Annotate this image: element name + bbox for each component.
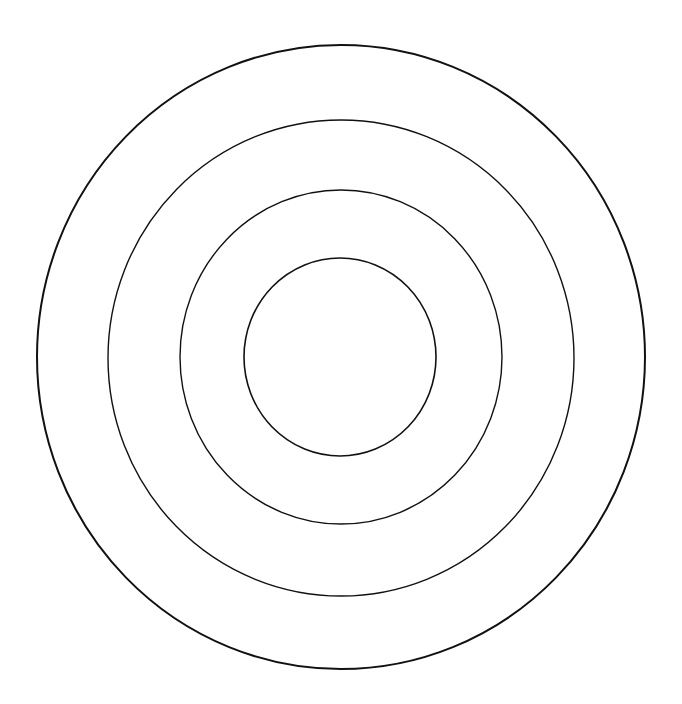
- inner-ring: [244, 258, 436, 456]
- third-ring: [180, 190, 502, 524]
- outer-ring: [37, 45, 645, 669]
- concentric-circles-diagram: [0, 0, 682, 704]
